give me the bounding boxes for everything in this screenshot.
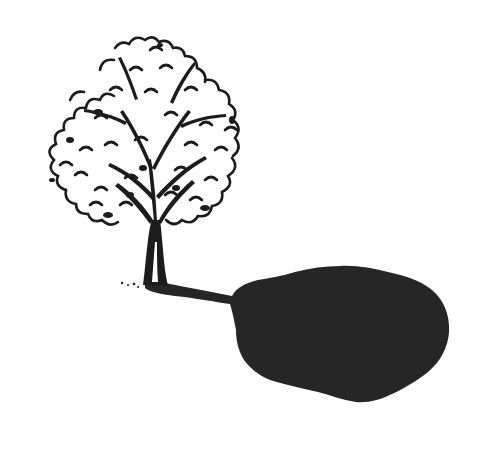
tree-shadow xyxy=(145,266,449,402)
ground-tufts xyxy=(121,282,139,288)
illustration-canvas: Tree with shadow illustration xyxy=(0,0,499,455)
tree-illustration xyxy=(0,0,499,455)
tree-canopy xyxy=(49,37,238,224)
